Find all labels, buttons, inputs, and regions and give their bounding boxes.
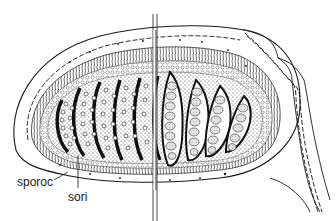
- label-sporocarp: sporoc: [17, 176, 53, 188]
- section-cut-line: [153, 14, 157, 221]
- label-sori: sori: [68, 191, 87, 203]
